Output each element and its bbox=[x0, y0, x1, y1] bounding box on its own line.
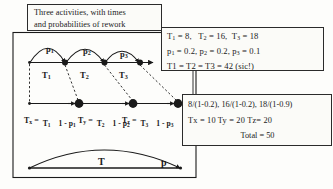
formula-tx-numerator: T1 bbox=[41, 119, 53, 128]
params-line-probs: p1 = 0.2, p2 = 0.2, p3 = 0.1 bbox=[167, 45, 319, 60]
rework-label-p2: p2 bbox=[83, 46, 91, 56]
bottom-time-label: T bbox=[98, 156, 105, 167]
p1-subscript: 1 bbox=[51, 48, 54, 54]
projection-dashed-1 bbox=[65, 65, 78, 100]
t2-value: = 16, bbox=[207, 31, 228, 41]
formula-tx-lhs: Tx = bbox=[24, 116, 41, 125]
params-line-total: T1 = T2 = T3 = 42 (sic!) bbox=[167, 60, 319, 74]
top-node-start bbox=[28, 61, 31, 64]
formula-tz: Tz = T3 1 - p3 bbox=[122, 112, 175, 130]
rework-label-p3: p3 bbox=[120, 49, 128, 59]
t2-subscript: 2 bbox=[86, 74, 89, 80]
bottom-node-end bbox=[179, 166, 182, 169]
ty-subscript: y bbox=[83, 120, 86, 126]
caption-box: Three activities, with times and probabi… bbox=[27, 4, 162, 31]
caption-line-2: and probabilities of rework bbox=[34, 19, 156, 31]
formula-tz-fraction: T3 1 - p3 bbox=[138, 112, 175, 130]
ty-equals: = bbox=[88, 116, 93, 125]
activity-label-t3: T3 bbox=[119, 70, 128, 80]
bottom-prob-label: p bbox=[161, 157, 167, 168]
bottom-node-start bbox=[28, 166, 31, 169]
t3-subscript: 3 bbox=[125, 74, 128, 80]
formula-tx-fraction: T1 1 - p1 bbox=[41, 112, 78, 130]
middle-node-start bbox=[28, 102, 31, 105]
tz-equals: = bbox=[132, 116, 137, 125]
top-node-1 bbox=[62, 60, 68, 66]
tx-subscript: x bbox=[29, 120, 32, 126]
t1-subscript: 1 bbox=[48, 74, 51, 80]
rework-label-p1: p1 bbox=[46, 44, 54, 54]
params-box: T1 = 8, T2 = 16, T3 = 18 p1 = 0.2, p2 = … bbox=[161, 27, 324, 71]
top-node-2 bbox=[102, 60, 108, 66]
p3-subscript: 3 bbox=[125, 53, 128, 59]
formula-tz-denominator: 1 - p3 bbox=[154, 119, 175, 128]
tz-subscript: z bbox=[127, 120, 130, 126]
activity-label-t1: T1 bbox=[42, 70, 51, 80]
middle-node-1 bbox=[75, 99, 84, 108]
results-line-total: Total = 50 bbox=[188, 128, 327, 144]
formula-tz-lhs: Tz = bbox=[122, 116, 138, 125]
p2-value: = 0.2, bbox=[207, 46, 230, 56]
t3-value: = 18 bbox=[240, 31, 258, 41]
formula-tx: Tx = T1 1 - p1 bbox=[24, 112, 78, 130]
p2-subscript: 2 bbox=[88, 50, 91, 56]
caption-line-1: Three activities, with times bbox=[34, 7, 156, 19]
tx-equals: = bbox=[34, 116, 39, 125]
formula-tx-denominator: 1 - p1 bbox=[57, 119, 78, 128]
figure-canvas: Three activities, with times and probabi… bbox=[0, 0, 333, 189]
results-box: 8/(1-0.2), 16/(1-0.2), 18/(1-0.9) Tx = 1… bbox=[182, 94, 332, 146]
formula-ty-lhs: Ty = bbox=[78, 116, 95, 125]
results-line-expressions: 8/(1-0.2), 16/(1-0.2), 18/(1-0.9) bbox=[188, 97, 327, 113]
middle-node-2 bbox=[129, 99, 138, 108]
params-line-times: T1 = 8, T2 = 16, T3 = 18 bbox=[167, 30, 319, 45]
top-node-3 bbox=[137, 60, 143, 66]
results-line-values: Tx = 10 Ty = 20 Tz= 20 bbox=[188, 113, 327, 129]
formula-ty-numerator: T2 bbox=[95, 119, 107, 128]
formula-tz-numerator: T3 bbox=[138, 119, 150, 128]
p1-value: = 0.2, bbox=[175, 46, 198, 56]
p3-value: = 0.1 bbox=[240, 46, 261, 56]
activity-label-t2: T2 bbox=[80, 70, 89, 80]
t1-value: = 8, bbox=[176, 31, 192, 41]
